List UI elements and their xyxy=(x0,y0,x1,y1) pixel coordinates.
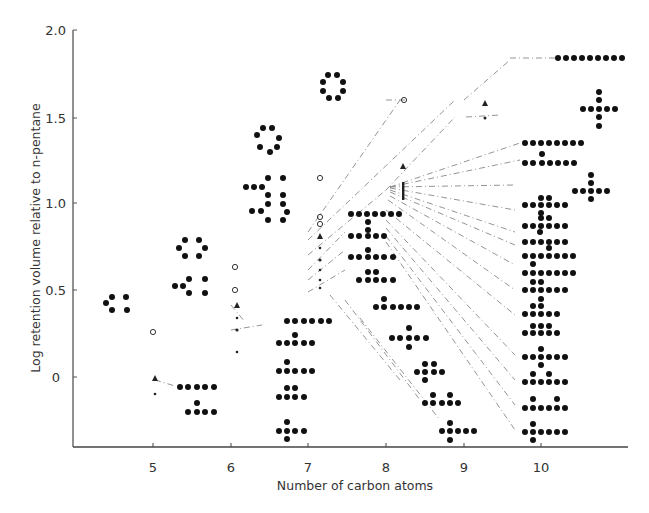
connector-lines xyxy=(155,58,555,430)
y-tick-label: 1.0 xyxy=(45,196,66,211)
x-axis-label: Number of carbon atoms xyxy=(277,478,433,493)
x-tick-label: 8 xyxy=(382,460,390,475)
x-tick-label: 10 xyxy=(533,460,550,475)
x-tick-label: 6 xyxy=(227,460,235,475)
y-tick-label: 1.5 xyxy=(45,111,66,126)
chart-canvas: 0 0.5 1.0 1.5 2.0 5 6 7 8 9 10 Number of… xyxy=(0,0,649,513)
x-ticks: 5 6 7 8 9 10 xyxy=(149,443,549,475)
y-tick-label: 0.5 xyxy=(45,283,66,298)
carbon-skeleton-glyphs xyxy=(103,55,625,443)
y-tick-label: 2.0 xyxy=(45,23,66,38)
y-axis-label: Log retention volume relative to n-penta… xyxy=(28,103,43,373)
y-ticks: 0 0.5 1.0 1.5 2.0 xyxy=(45,23,77,385)
x-tick-label: 7 xyxy=(304,460,312,475)
y-tick-label: 0 xyxy=(52,370,60,385)
triangle-markers xyxy=(152,100,488,381)
x-tick-label: 5 xyxy=(149,460,157,475)
x-tick-label: 9 xyxy=(460,460,468,475)
dot-markers xyxy=(154,117,487,396)
